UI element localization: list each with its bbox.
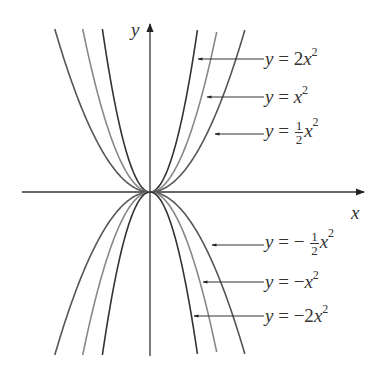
- label-x2: y = x2: [265, 87, 308, 106]
- label-neg-x2: y = −x2: [265, 272, 319, 291]
- label-half-x2: y = 12x2: [265, 119, 319, 146]
- label-neg-2x2: y = −2x2: [265, 306, 328, 325]
- label-2x2: y = 2x2: [265, 49, 318, 68]
- pointer-arrows: [194, 59, 264, 316]
- x-axis-label: x: [351, 203, 359, 222]
- label-neg-half-x2: y = − 12x2: [265, 230, 334, 257]
- y-axis-label: y: [131, 20, 139, 39]
